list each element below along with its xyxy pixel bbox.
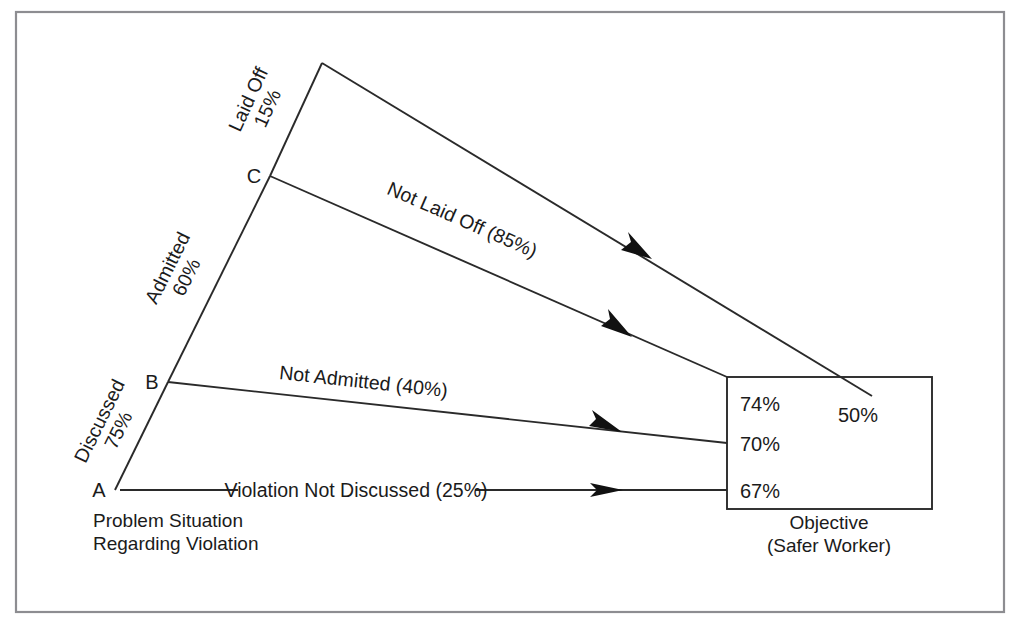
outcome-value-top: 74% — [740, 393, 780, 415]
edge-c-to-d — [270, 63, 322, 176]
arrow-head-not-laid-off — [601, 309, 632, 337]
branch-label-not-admitted: Not Admitted (40%) — [278, 361, 448, 401]
figure-root: A B C Discussed 75% Admitted 60% Laid Of… — [0, 0, 1019, 630]
branch-label-not-admitted-text: Not Admitted (40%) — [278, 361, 448, 401]
outcome-value-laid-off: 50% — [838, 404, 878, 426]
branch-label-not-laid-off: Not Laid Off (85%) — [384, 177, 540, 262]
branch-label-admitted: Admitted 60% — [140, 228, 213, 316]
node-label-a: A — [92, 479, 106, 501]
caption-left-line2: Regarding Violation — [93, 533, 259, 554]
edge-laid-off-to-outcome — [322, 63, 872, 396]
node-label-b: B — [145, 371, 158, 393]
outcome-value-bottom: 67% — [740, 480, 780, 502]
caption-right-line1: Objective — [789, 512, 868, 533]
branch-label-laid-off: Laid Off 15% — [224, 63, 292, 143]
arrow-head-laid-off — [621, 232, 652, 259]
branch-label-violation-not-discussed: Violation Not Discussed (25%) — [224, 479, 487, 501]
caption-left-line1: Problem Situation — [93, 510, 243, 531]
decision-tree-diagram: A B C Discussed 75% Admitted 60% Laid Of… — [0, 0, 1019, 630]
edge-not-laid-off-to-outcome — [270, 176, 727, 377]
branch-label-discussed: Discussed 75% — [69, 376, 147, 476]
outcome-value-middle: 70% — [740, 433, 780, 455]
caption-right-line2: (Safer Worker) — [767, 535, 891, 556]
node-label-c: C — [247, 165, 261, 187]
branch-label-not-laid-off-text: Not Laid Off (85%) — [384, 177, 540, 262]
